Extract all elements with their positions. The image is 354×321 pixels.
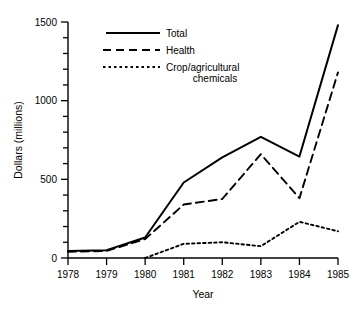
x-tick-label: 1984 xyxy=(288,269,311,280)
data-series-group xyxy=(68,25,338,258)
x-tick-label: 1978 xyxy=(57,269,80,280)
x-axis-title: Year xyxy=(192,288,214,300)
legend-label-total: Total xyxy=(166,28,187,39)
chart-container: 050010001500 197819791980198119821983198… xyxy=(0,0,354,321)
y-axis-title: Dollars (millions) xyxy=(12,101,24,179)
y-tick-label: 0 xyxy=(51,253,57,264)
series-line-health xyxy=(68,72,338,251)
x-tick-label: 1981 xyxy=(173,269,196,280)
legend-label-health: Health xyxy=(166,45,195,56)
y-tick-label: 1500 xyxy=(35,17,58,28)
x-tick-label: 1983 xyxy=(250,269,273,280)
y-tick-label: 500 xyxy=(40,174,57,185)
x-tick-label: 1985 xyxy=(327,269,350,280)
x-tick-label: 1980 xyxy=(134,269,157,280)
legend-label-crop-line2: chemicals xyxy=(193,73,237,84)
legend-label-crop: Crop/agricultural xyxy=(166,62,239,73)
y-axis-tick-labels: 050010001500 xyxy=(35,17,58,264)
x-tick-label: 1982 xyxy=(211,269,234,280)
x-axis-ticks xyxy=(68,258,338,265)
y-tick-label: 1000 xyxy=(35,95,58,106)
line-chart: 050010001500 197819791980198119821983198… xyxy=(0,0,354,321)
x-axis-tick-labels: 19781979198019811982198319841985 xyxy=(57,269,350,280)
series-line-total xyxy=(68,25,338,251)
y-axis-ticks xyxy=(61,22,68,258)
series-line-crop-agricultural-chemicals xyxy=(145,222,338,258)
legend: Total Health Crop/agricultural chemicals xyxy=(103,28,239,85)
x-tick-label: 1979 xyxy=(95,269,118,280)
